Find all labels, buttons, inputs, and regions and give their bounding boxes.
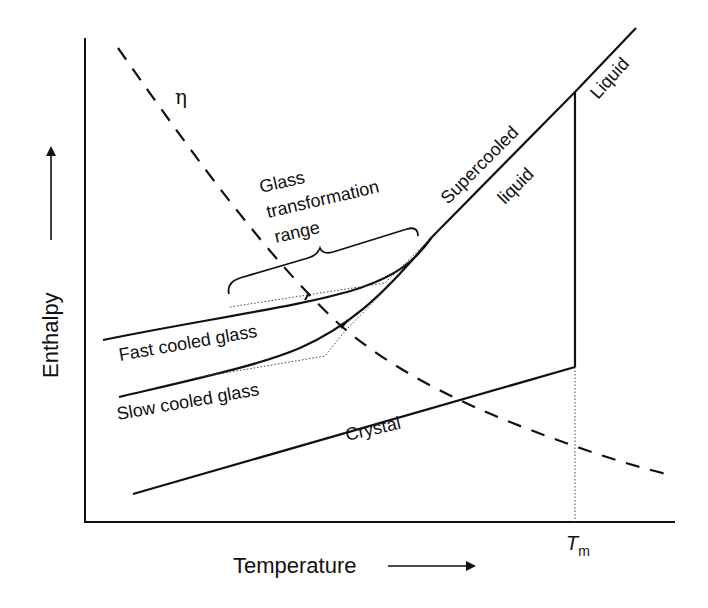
viscosity-curve [118, 48, 666, 474]
crystal-label: Crystal [343, 413, 402, 445]
fast-cooled-glass-label: Fast cooled glass [117, 321, 258, 365]
tm-tick-label: Tm [566, 532, 590, 559]
y-axis-label: Enthalpy [38, 292, 63, 378]
glass-range-label-line1: Glass [257, 167, 306, 197]
liquid-line [432, 28, 636, 237]
viscosity-label: η [175, 85, 187, 109]
liquid-label: Liquid [586, 54, 633, 103]
slow-cooled-glass-label: Slow cooled glass [115, 379, 260, 424]
supercooled-liquid-label: liquid [494, 164, 538, 208]
slow-cooled-glass-curve [119, 237, 432, 397]
tm-subscript: m [578, 543, 590, 559]
fast-cooled-glass-curve [103, 237, 432, 340]
glass-range-label-line3: range [272, 217, 321, 247]
enthalpy-temperature-diagram: η Glass transformation range Supercooled… [0, 0, 708, 608]
x-axis-label: Temperature [233, 553, 357, 578]
